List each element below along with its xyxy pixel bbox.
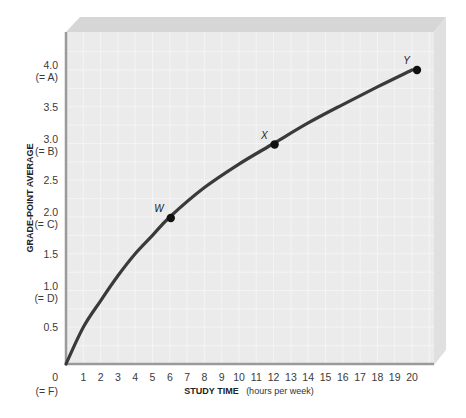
point-x bbox=[270, 140, 278, 148]
box-top-face bbox=[66, 17, 446, 32]
y-tick-grade: (= B) bbox=[35, 145, 58, 157]
y-tick-label: 1.5 bbox=[43, 248, 58, 260]
x-tick-label: 13 bbox=[285, 371, 297, 383]
box-side-face bbox=[434, 17, 446, 365]
y-tick-grade: (= F) bbox=[36, 385, 58, 397]
y-tick-label: 1.0 bbox=[43, 280, 58, 292]
x-axis-title-main: STUDY TIME bbox=[184, 386, 238, 396]
gpa-study-time-chart: 4.0(= A)3.53.0(= B)2.52.0(= C)1.51.0(= D… bbox=[0, 0, 466, 418]
y-tick-grade: (= A) bbox=[36, 71, 58, 83]
y-tick-label: 3.5 bbox=[43, 101, 58, 113]
x-tick-label: 17 bbox=[354, 371, 366, 383]
y-tick-label: 4.0 bbox=[43, 59, 58, 71]
x-tick-label: 15 bbox=[320, 371, 332, 383]
y-tick-grade: (= C) bbox=[34, 218, 58, 230]
y-tick-grade: (= D) bbox=[34, 292, 58, 304]
point-w bbox=[167, 214, 175, 222]
y-tick-label: 2.5 bbox=[43, 174, 58, 186]
x-tick-label: 6 bbox=[167, 371, 173, 383]
x-tick-label: 3 bbox=[115, 371, 121, 383]
x-tick-label: 4 bbox=[132, 371, 138, 383]
x-tick-label: 11 bbox=[251, 371, 262, 383]
y-axis-ticks: 4.0(= A)3.53.0(= B)2.52.0(= C)1.51.0(= D… bbox=[34, 59, 58, 397]
x-tick-label: 2 bbox=[98, 371, 104, 383]
x-tick-label: 14 bbox=[302, 371, 314, 383]
x-tick-label: 9 bbox=[219, 371, 225, 383]
point-label: X bbox=[260, 130, 268, 141]
x-axis-title-unit: (hours per week) bbox=[246, 386, 314, 396]
x-tick-label: 12 bbox=[268, 371, 280, 383]
y-tick-label: 0.5 bbox=[43, 321, 58, 333]
x-tick-label: 18 bbox=[372, 371, 384, 383]
x-tick-label: 20 bbox=[406, 371, 418, 383]
point-label: W bbox=[154, 203, 165, 214]
y-tick-label: 2.0 bbox=[43, 206, 58, 218]
point-y bbox=[413, 66, 421, 74]
y-axis-title: GRADE-POINT AVERAGE bbox=[25, 143, 35, 252]
x-tick-label: 16 bbox=[337, 371, 349, 383]
x-tick-label: 8 bbox=[201, 371, 207, 383]
x-tick-label: 5 bbox=[150, 371, 156, 383]
x-axis-ticks: 1234567891011121314151617181920 bbox=[80, 371, 418, 383]
x-tick-label: 19 bbox=[389, 371, 401, 383]
x-tick-label: 1 bbox=[80, 371, 86, 383]
y-tick-label: 0 bbox=[52, 371, 58, 383]
x-tick-label: 7 bbox=[184, 371, 190, 383]
y-tick-label: 3.0 bbox=[43, 133, 58, 145]
